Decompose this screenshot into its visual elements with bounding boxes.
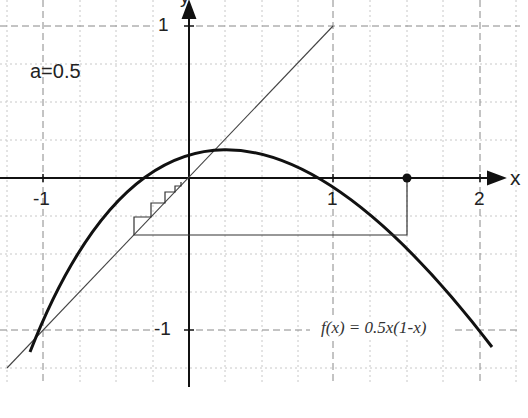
y-tick-neg1: -1 [154, 318, 171, 340]
function-label: f(x) = 0.5x(1-x) [318, 318, 429, 338]
x-tick-2: 2 [474, 188, 485, 210]
y-axis-label: y [180, 0, 190, 8]
x-axis-arrow-icon [488, 172, 504, 184]
minor-grid [0, 0, 520, 385]
x-tick-1: 1 [327, 188, 338, 210]
parameter-label: a=0.5 [30, 60, 81, 83]
starting-point-dot [403, 174, 412, 183]
y-tick-1: 1 [158, 14, 169, 36]
major-grid [0, 0, 520, 385]
cobweb-path [134, 178, 407, 235]
x-tick-neg1: -1 [33, 188, 50, 210]
x-axis-label: x [510, 166, 521, 190]
